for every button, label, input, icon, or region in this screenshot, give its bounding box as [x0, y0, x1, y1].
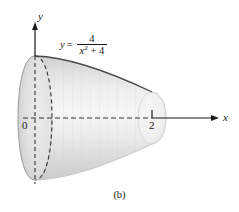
solid-of-revolution-figure: y x 0 2 y = 4 x2 + 4 (b): [0, 0, 239, 212]
y-axis-arrowhead: [32, 22, 38, 30]
x-axis-label: x: [223, 112, 228, 123]
equation-denominator-rest: + 4: [90, 45, 104, 56]
equation-fraction: 4 x2 + 4: [77, 33, 108, 56]
y-axis-label: y: [38, 11, 43, 22]
equation-denominator-exponent: 2: [84, 44, 88, 52]
origin-label: 0: [22, 120, 28, 131]
equation-lhs: y: [60, 39, 65, 50]
figure-canvas: [0, 0, 239, 212]
curve-equation-label: y = 4 x2 + 4: [60, 33, 107, 56]
solid-body: [18, 50, 166, 190]
figure-caption: (b): [0, 189, 239, 200]
equation-equals-sign: =: [67, 39, 73, 50]
x-tick-label-2: 2: [149, 120, 155, 131]
x-axis-arrowhead: [211, 115, 219, 121]
equation-denominator: x2 + 4: [77, 45, 108, 56]
equation-numerator: 4: [86, 33, 97, 44]
